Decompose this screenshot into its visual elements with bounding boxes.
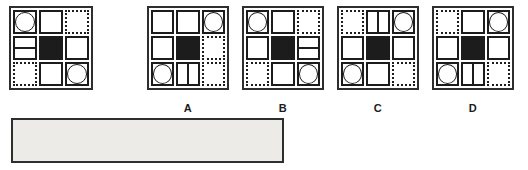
empty-square-dotted-border-icon: [202, 36, 225, 60]
empty-square-solid-border-icon: [271, 10, 294, 34]
empty-square-dotted-border-icon: [65, 10, 89, 34]
empty-square-solid-border-icon: [176, 10, 199, 34]
option-c-label: C: [374, 102, 382, 114]
circle-in-square-icon: [297, 62, 320, 86]
empty-square-dotted-border-icon: [202, 62, 225, 86]
matrix-puzzle-figure: A B C D: [0, 0, 528, 170]
square-split-vertical-icon: [461, 62, 484, 86]
empty-square-solid-border-icon: [366, 62, 389, 86]
question-grid: [9, 6, 93, 90]
option-b-grid[interactable]: [242, 6, 324, 90]
option-d-label: D: [469, 102, 477, 114]
empty-square-dotted-border-icon: [436, 10, 459, 34]
filled-black-square-icon: [366, 36, 389, 60]
empty-square-dotted-border-icon: [246, 62, 269, 86]
filled-black-square-icon: [461, 36, 484, 60]
empty-square-dotted-border-icon: [392, 62, 415, 86]
empty-square-solid-border-icon: [271, 62, 294, 86]
circle-in-square-icon: [151, 62, 174, 86]
circle-in-square-icon: [246, 10, 269, 34]
option-a[interactable]: A: [147, 6, 229, 114]
empty-square-dotted-border-icon: [13, 62, 37, 86]
empty-square-solid-border-icon: [246, 36, 269, 60]
circle-in-square-icon: [202, 10, 225, 34]
square-split-horizontal-icon: [13, 36, 37, 60]
empty-square-solid-border-icon: [151, 36, 174, 60]
circle-in-square-icon: [13, 10, 37, 34]
option-c-grid[interactable]: [337, 6, 419, 90]
square-split-horizontal-icon: [297, 36, 320, 60]
option-b-label: B: [279, 102, 287, 114]
empty-square-solid-border-icon: [151, 10, 174, 34]
circle-in-square-icon: [392, 10, 415, 34]
empty-square-dotted-border-icon: [487, 62, 510, 86]
option-c[interactable]: C: [337, 6, 419, 114]
option-b[interactable]: B: [242, 6, 324, 114]
option-a-grid[interactable]: [147, 6, 229, 90]
option-d-grid[interactable]: [432, 6, 514, 90]
empty-square-solid-border-icon: [39, 62, 63, 86]
empty-square-solid-border-icon: [487, 36, 510, 60]
circle-in-square-icon: [341, 62, 364, 86]
option-a-label: A: [184, 102, 192, 114]
answer-box[interactable]: [11, 118, 284, 163]
empty-square-solid-border-icon: [436, 36, 459, 60]
empty-square-solid-border-icon: [65, 36, 89, 60]
filled-black-square-icon: [176, 36, 199, 60]
empty-square-solid-border-icon: [461, 10, 484, 34]
circle-in-square-icon: [65, 62, 89, 86]
filled-black-square-icon: [39, 36, 63, 60]
filled-black-square-icon: [271, 36, 294, 60]
square-split-vertical-icon: [366, 10, 389, 34]
empty-square-dotted-border-icon: [341, 10, 364, 34]
empty-square-solid-border-icon: [341, 36, 364, 60]
square-split-vertical-icon: [176, 62, 199, 86]
circle-in-square-icon: [436, 62, 459, 86]
empty-square-dotted-border-icon: [297, 10, 320, 34]
empty-square-solid-border-icon: [392, 36, 415, 60]
circle-in-square-icon: [487, 10, 510, 34]
empty-square-solid-border-icon: [39, 10, 63, 34]
option-d[interactable]: D: [432, 6, 514, 114]
